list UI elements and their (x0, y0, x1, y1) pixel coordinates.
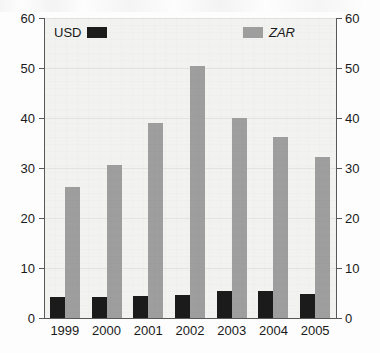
y-tick-left (39, 18, 44, 19)
y-tick-label-right: 50 (345, 62, 359, 75)
y-tick-label-left: 60 (21, 12, 35, 25)
scan-artifact (0, 0, 380, 12)
y-tick-label-left: 10 (21, 262, 35, 275)
legend-swatch-usd (87, 27, 107, 38)
bar-usd-2005 (300, 294, 315, 319)
y-axis-left (44, 18, 45, 319)
y-tick-right (337, 68, 342, 69)
y-tick-label-left: 50 (21, 62, 35, 75)
x-tick-label-2003: 2003 (211, 324, 253, 338)
bar-zar-1999 (65, 187, 80, 318)
y-tick-right (337, 218, 342, 219)
bar-usd-2004 (258, 291, 273, 319)
legend-item-usd: USD (54, 26, 107, 39)
y-tick-right (337, 168, 342, 169)
y-tick-label-left: 0 (28, 312, 35, 325)
y-tick-left (39, 218, 44, 219)
bar-zar-2005 (315, 157, 330, 318)
y-tick-right (337, 268, 342, 269)
legend-swatch-zar (243, 27, 263, 38)
legend-label-usd: USD (54, 26, 81, 39)
bar-zar-2004 (273, 137, 288, 318)
x-tick-label-2005: 2005 (294, 324, 336, 338)
y-tick-right (337, 318, 342, 319)
bar-usd-1999 (50, 297, 65, 318)
bar-zar-2000 (107, 165, 122, 319)
bar-usd-2000 (92, 297, 107, 318)
y-tick-label-left: 20 (21, 212, 35, 225)
bar-usd-2001 (133, 296, 148, 318)
y-tick-left (39, 118, 44, 119)
x-tick-label-2004: 2004 (253, 324, 295, 338)
x-tick-label-2001: 2001 (127, 324, 169, 338)
y-tick-label-right: 30 (345, 162, 359, 175)
bar-zar-2003 (232, 118, 247, 319)
gridline (44, 18, 336, 19)
y-tick-left (39, 268, 44, 269)
bar-chart: 00101020203030404050506060 1999200020012… (0, 0, 380, 353)
bar-zar-2001 (148, 123, 163, 318)
bar-usd-2003 (217, 291, 232, 318)
y-tick-label-right: 40 (345, 112, 359, 125)
y-tick-left (39, 68, 44, 69)
y-tick-left (39, 168, 44, 169)
x-tick-label-1999: 1999 (44, 324, 86, 338)
y-tick-label-left: 30 (21, 162, 35, 175)
bar-zar-2002 (190, 66, 205, 319)
y-tick-right (337, 118, 342, 119)
x-tick-label-2002: 2002 (169, 324, 211, 338)
y-tick-label-right: 0 (345, 312, 352, 325)
plot-area (44, 18, 336, 318)
x-tick-label-2000: 2000 (86, 324, 128, 338)
y-tick-label-right: 20 (345, 212, 359, 225)
x-axis (44, 318, 337, 319)
y-tick-label-right: 60 (345, 12, 359, 25)
legend-label-zar: ZAR (269, 26, 295, 39)
y-tick-label-right: 10 (345, 262, 359, 275)
y-tick-label-left: 40 (21, 112, 35, 125)
y-tick-left (39, 318, 44, 319)
bar-usd-2002 (175, 295, 190, 319)
legend-item-zar: ZAR (243, 26, 295, 39)
y-tick-right (337, 18, 342, 19)
